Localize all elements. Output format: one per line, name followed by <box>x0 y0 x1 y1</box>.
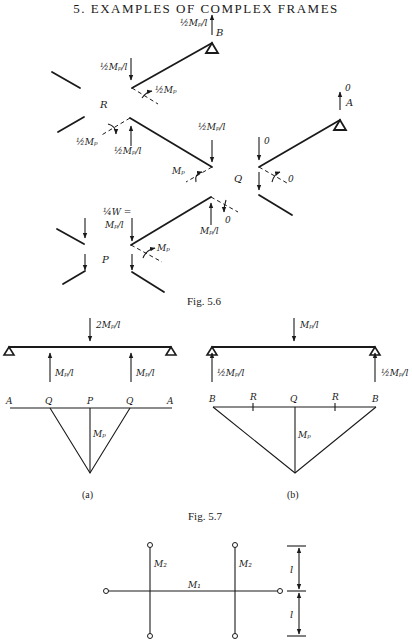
fig-5-7b: Mₚ/l ½Mₚ/l ½Mₚ/l B R Q R B Mₚ (b) <box>207 318 409 501</box>
label-r-left-moment: ½Mₚ <box>76 137 98 147</box>
fig-5-7a-label: (a) <box>82 489 93 501</box>
hinge-left-icon <box>104 589 109 594</box>
moment-arrow-a-arm-icon <box>272 172 280 182</box>
label-p-load-line1: ¼W = <box>103 207 131 217</box>
point-label-b-2: Q <box>290 394 298 404</box>
member-rb <box>132 43 212 88</box>
member-stub-p-left-upper <box>57 229 84 244</box>
label-r-bottom-shear: ½Mₚ/l <box>114 146 142 156</box>
fig-5-6: ½Mₚ/l B ½Mₚ/l ½Mₚ R ½Mₚ ½Mₚ/l ½Mₚ/l Mₚ Q <box>52 15 353 307</box>
moment-arrow-q-bottom-icon <box>224 200 226 212</box>
label-b-reaction: ½Mₚ/l <box>180 18 208 28</box>
label-dim-upper: l <box>290 564 293 575</box>
point-label-b-3: R <box>331 392 339 402</box>
label-q-left-moment: Mₚ <box>171 166 185 176</box>
label-q-top-shear: ½Mₚ/l <box>198 122 226 132</box>
hinge-top-left-icon <box>148 543 153 548</box>
member-pq <box>131 197 211 245</box>
label-a-moment: Mₚ <box>92 429 106 439</box>
cut-line-q-left <box>186 167 212 182</box>
point-label-a-3: Q <box>126 396 134 406</box>
label-p-moment: Mₚ <box>156 243 170 253</box>
label-m2-right: M₂ <box>238 559 252 569</box>
joint-label-a: A <box>345 97 353 108</box>
joint-label-p: P <box>101 254 109 265</box>
joint-label-b: B <box>215 27 223 38</box>
point-label-a-2: P <box>86 396 94 406</box>
hinge-right-icon <box>278 589 283 594</box>
label-a-arm-moment: 0 <box>288 174 294 184</box>
page-canvas: 5. EXAMPLES OF COMPLEX FRAMES ½Mₚ/l B ½M… <box>0 0 412 641</box>
label-r-top-shear: ½Mₚ/l <box>100 62 128 72</box>
joint-label-r: R <box>99 99 108 110</box>
point-label-a-0: A <box>5 396 13 406</box>
label-a-left-reaction: Mₚ/l <box>54 368 74 378</box>
page-header: 5. EXAMPLES OF COMPLEX FRAMES <box>73 1 339 16</box>
member-stub-p-left-lower <box>63 271 85 284</box>
label-b-left-reaction: ½Mₚ/l <box>217 368 245 378</box>
hinge-top-right-icon <box>233 543 238 548</box>
label-r-top-moment: ½Mₚ <box>155 85 177 95</box>
label-a-reaction: 0 <box>345 83 351 93</box>
label-b-top-load: Mₚ/l <box>299 320 319 330</box>
label-a-right-reaction: Mₚ/l <box>135 368 155 378</box>
member-stub-left-upper <box>52 72 80 88</box>
label-b-moment: Mₚ <box>297 430 311 440</box>
fig-5-7a: 2Mₚ/l Mₚ/l Mₚ/l A Q P Q A Mₚ (a) <box>4 318 176 501</box>
label-q-bottom-shear: Mₚ/l <box>199 226 219 236</box>
member-stub-left-lower <box>58 117 84 132</box>
hinge-bottom-left-icon <box>148 634 153 639</box>
point-label-a-4: A <box>166 396 174 406</box>
moment-arrow-q-left-icon <box>196 172 202 182</box>
fig-5-6-caption: Fig. 5.6 <box>187 295 221 307</box>
label-a-top-load: 2Mₚ/l <box>95 320 121 330</box>
member-stub-p-right-lower <box>132 272 164 292</box>
member-qa <box>259 120 340 167</box>
hinge-bottom-right-icon <box>233 634 238 639</box>
label-m1: M₁ <box>187 580 201 590</box>
label-b-right-reaction: ½Mₚ/l <box>381 368 409 378</box>
point-label-b-4: B <box>371 394 379 404</box>
pin-support-a-left-icon <box>4 347 14 355</box>
pin-support-a-right-icon <box>166 347 176 355</box>
member-stub-q-right <box>259 195 292 215</box>
cut-line-r-bottom <box>100 118 130 136</box>
fig-5-7-caption: Fig. 5.7 <box>188 510 222 522</box>
label-a-arm-shear: 0 <box>264 136 270 146</box>
cut-line-a-arm <box>259 167 287 183</box>
label-p-load-line2: Mₚ/l <box>104 220 124 230</box>
fig-5-8: M₂ M₁ M₂ l l <box>104 543 307 639</box>
point-label-b-1: R <box>249 392 257 402</box>
point-label-b-0: B <box>208 394 216 404</box>
label-q-bottom-moment: 0 <box>225 215 231 225</box>
label-m2-left: M₂ <box>153 559 167 569</box>
joint-label-q: Q <box>234 173 242 184</box>
label-dim-lower: l <box>290 609 293 620</box>
point-label-a-1: Q <box>45 396 53 406</box>
fig-5-7b-label: (b) <box>287 489 299 501</box>
